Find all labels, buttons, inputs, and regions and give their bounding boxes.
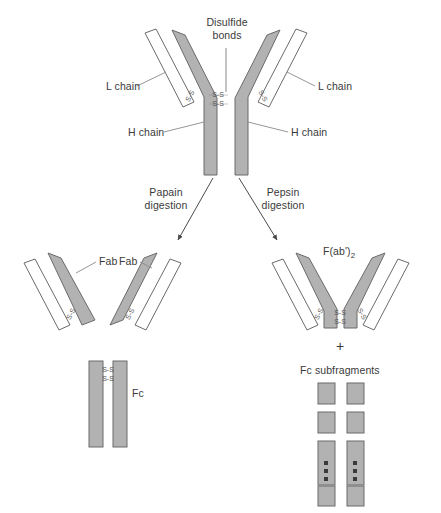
papain-digestion-line1: Papain (149, 186, 182, 198)
fc-subfragment-dot (353, 469, 357, 473)
l-chain-left-label: L chain (106, 80, 140, 92)
svg-text:S-S: S-S (334, 318, 346, 325)
disulfide-bonds-line2: bonds (212, 29, 241, 41)
fc-subfragment (318, 412, 335, 433)
fc-subfragment (347, 486, 364, 506)
l-chain-left-leader (137, 72, 166, 86)
fab-left-label: Fab (99, 255, 117, 267)
svg-text:S-S: S-S (212, 100, 224, 107)
pepsin-digestion-line2: digestion (262, 199, 305, 211)
l-chain-right-label: L chain (318, 80, 352, 92)
h-chain-left-label: H chain (128, 126, 164, 138)
svg-text:S-S: S-S (334, 309, 346, 316)
fc-label: Fc (132, 387, 144, 399)
svg-text:S-S: S-S (102, 366, 114, 373)
disulfide-bonds-line1: Disulfide (206, 16, 247, 28)
heavy-chain-right (235, 30, 280, 175)
fab-right-label: Fab (119, 255, 137, 267)
fab2-label: F(ab')2 (323, 245, 355, 262)
h-chain-left-leader (164, 122, 204, 132)
h-chain-right-label: H chain (291, 126, 327, 138)
fab2-fragment: S-S S-S S-S S-S (272, 253, 409, 330)
papain-digestion-label: Papain digestion (137, 186, 195, 212)
fc-subfragment (318, 486, 335, 506)
fc-chain-left (89, 361, 103, 447)
papain-digestion-line2: digestion (145, 199, 188, 211)
fab-left-leader (76, 262, 96, 273)
intact-antibody-shape: S-S S-S S-S S-S (137, 29, 315, 175)
heavy-chain-left (172, 30, 217, 175)
fc-subfragments-label: Fc subfragments (300, 364, 380, 376)
h-chain-right-leader (248, 122, 288, 132)
fc-subfragment-dot (324, 461, 328, 465)
fc-subfragment (347, 383, 364, 404)
l-chain-right-leader (287, 72, 315, 86)
fc-chain-right (113, 361, 127, 447)
fc-subfragment-dot (353, 477, 357, 481)
plus-symbol: + (336, 338, 344, 354)
disulfide-bonds-label: Disulfide bonds (196, 16, 258, 42)
svg-text:S-S: S-S (212, 91, 224, 98)
fab2-label-subscript: 2 (351, 251, 356, 260)
antibody-digestion-diagram: S-S S-S S-S S-S S-S (0, 0, 441, 513)
svg-text:S-S: S-S (102, 375, 114, 382)
fc-subfragment (318, 383, 335, 404)
pepsin-digestion-label: Pepsin digestion (254, 186, 312, 212)
fc-subfragment-dot (324, 469, 328, 473)
fab-fragment-left: S-S (24, 253, 96, 330)
fab2-label-main: F(ab') (323, 245, 351, 257)
fc-subfragments-group (318, 383, 364, 506)
fc-subfragment-dot (353, 461, 357, 465)
fc-disulfide-bonds: S-S S-S (102, 366, 114, 382)
fc-fragment: S-S S-S (89, 361, 127, 447)
diagram-graphics: S-S S-S S-S S-S S-S (0, 0, 441, 513)
fc-subfragment-dot (324, 477, 328, 481)
fc-subfragment (347, 412, 364, 433)
pepsin-digestion-line1: Pepsin (267, 186, 300, 198)
